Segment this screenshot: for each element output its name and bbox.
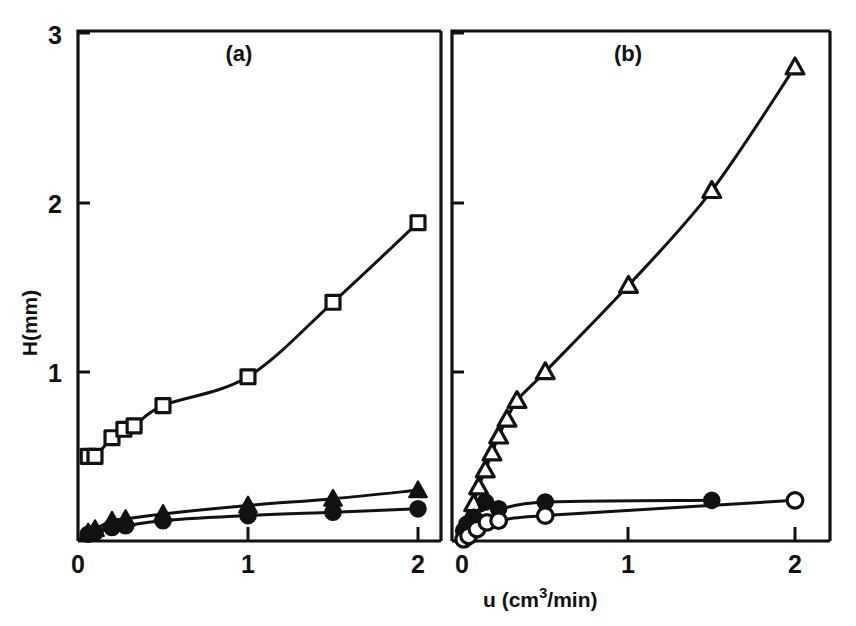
data-point-filled-circle — [410, 501, 426, 517]
panel-a-xtick-1: 1 — [241, 550, 255, 578]
panel-a-ytick-2: 2 — [48, 190, 62, 218]
data-point-open-square — [156, 399, 170, 413]
panel-a-xtick-2: 2 — [411, 550, 425, 578]
data-point-open-circle — [537, 508, 553, 524]
x-axis-label-superscript: 3 — [539, 584, 547, 601]
data-point-filled-circle — [118, 518, 134, 534]
panel-a-ytick-3: 3 — [48, 21, 62, 49]
x-axis-label-suffix: /min) — [547, 588, 597, 611]
data-point-filled-circle — [325, 504, 341, 520]
panel-b-xtick-1: 1 — [621, 550, 635, 578]
panel-a-ytick-1: 1 — [48, 359, 62, 387]
panel-b-xtick-2: 2 — [788, 550, 802, 578]
data-point-filled-circle — [87, 525, 103, 541]
panel-a-label: (a) — [226, 41, 253, 66]
data-point-filled-circle — [240, 508, 256, 524]
data-point-open-square — [88, 449, 102, 463]
panel-b-xtick-0: 0 — [455, 550, 469, 578]
data-point-open-circle — [787, 493, 803, 509]
figure-root: 3 2 1 0 1 2 (a) H(mm) 0 1 2 (b) — [0, 0, 856, 626]
data-point-open-circle — [491, 513, 507, 529]
y-axis-label: H(mm) — [18, 290, 41, 357]
data-point-open-square — [241, 370, 255, 384]
panel-a-xtick-0: 0 — [71, 550, 85, 578]
data-point-filled-circle — [155, 513, 171, 529]
data-point-open-square — [127, 419, 141, 433]
x-axis-label-main: u (cm — [483, 588, 539, 611]
data-point-open-square — [411, 216, 425, 230]
data-point-open-square — [326, 295, 340, 309]
panel-b-label: (b) — [614, 41, 642, 66]
